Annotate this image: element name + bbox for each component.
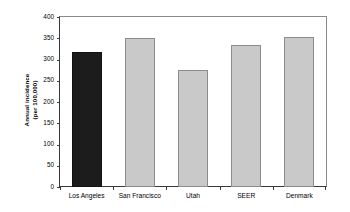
- bar-slot: [273, 17, 326, 187]
- x-axis-label-utah: Utah: [186, 192, 200, 199]
- x-axis-label-los-angeles: Los Angeles: [69, 192, 105, 199]
- bar-slot: [166, 17, 219, 187]
- x-axis-tick-mark: [273, 187, 274, 190]
- x-axis-ticks: [60, 187, 326, 191]
- bar-chart: Annual incidence (per 100,000) 050100150…: [0, 0, 350, 212]
- bar-slot: [220, 17, 273, 187]
- x-axis-tick-mark: [60, 187, 61, 190]
- bars-container: [60, 17, 326, 187]
- y-axis-tick-label: 200: [43, 98, 54, 105]
- bar-slot: [113, 17, 166, 187]
- x-axis-label-seer: SEER: [237, 192, 255, 199]
- y-axis-tick-label: 50: [47, 161, 54, 168]
- y-axis-tick-label: 250: [43, 76, 54, 83]
- y-axis-title-line1: Annual incidence: [23, 74, 31, 127]
- bar-utah[interactable]: [178, 70, 208, 187]
- bar-slot: [60, 17, 113, 187]
- bar-los-angeles[interactable]: [72, 52, 102, 187]
- bar-san-francisco[interactable]: [125, 38, 155, 187]
- y-axis-tick-label: 150: [43, 119, 54, 126]
- bar-seer[interactable]: [231, 45, 261, 187]
- y-axis-tick-label: 100: [43, 140, 54, 147]
- x-axis-tick-mark: [166, 187, 167, 190]
- y-axis-tick-label: 350: [43, 34, 54, 41]
- x-axis-tick-mark: [113, 187, 114, 190]
- y-axis-title: Annual incidence (per 100,000): [20, 14, 42, 186]
- x-axis-label-san-francisco: San Francisco: [119, 192, 161, 199]
- y-axis-tick-label: 0: [50, 183, 54, 190]
- x-axis-labels: Los AngelesSan FranciscoUtahSEERDenmark: [60, 192, 326, 206]
- y-axis-title-line2: (per 100,000): [31, 80, 39, 119]
- y-axis-tick-label: 400: [43, 13, 54, 20]
- bar-denmark[interactable]: [284, 37, 314, 187]
- x-axis-tick-mark: [220, 187, 221, 190]
- x-axis-label-denmark: Denmark: [286, 192, 313, 199]
- x-axis-tick-mark: [325, 187, 326, 190]
- y-axis-tick-label: 300: [43, 55, 54, 62]
